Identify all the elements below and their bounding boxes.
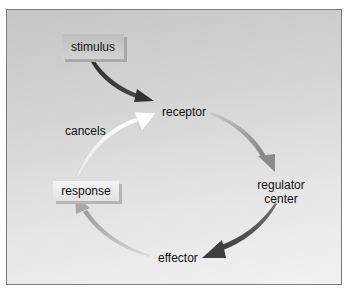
regulator-center-label: regulator center [256, 178, 306, 206]
receptor-label: receptor [162, 105, 206, 119]
arrow-receptor-to-regulator [210, 112, 275, 172]
regulator-label-line1: regulator [256, 178, 306, 192]
arrows-layer [0, 0, 347, 292]
regulator-label-line2: center [256, 192, 306, 206]
arrow-regulator-to-effector [202, 203, 277, 258]
response-label: response [61, 184, 110, 198]
stimulus-label: stimulus [71, 40, 115, 54]
cancels-label: cancels [65, 124, 106, 138]
arrow-stimulus-to-receptor [91, 60, 154, 102]
response-box: response [53, 181, 119, 201]
arrow-effector-to-response [75, 196, 150, 257]
arrow-response-to-receptor [76, 112, 156, 177]
stimulus-box: stimulus [62, 34, 124, 59]
effector-label: effector [158, 251, 198, 265]
